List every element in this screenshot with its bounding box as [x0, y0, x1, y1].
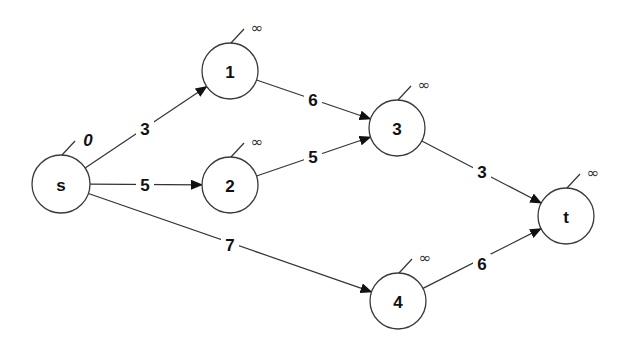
distance-tick [399, 259, 412, 273]
distance-label: ∞ [251, 133, 264, 151]
distance-tick [231, 29, 244, 43]
node-2: 2∞ [202, 133, 263, 213]
distance-tick [231, 143, 244, 157]
edges-layer: 3576536 [85, 80, 541, 292]
edge-weight: 3 [140, 120, 149, 139]
edge-weight: 7 [225, 236, 234, 255]
distance-label: ∞ [251, 19, 264, 37]
edge-s-2: 5 [90, 175, 202, 195]
distance-tick [62, 141, 75, 155]
node-s: s0 [32, 131, 93, 214]
distance-tick [567, 174, 580, 188]
edge-weight: 6 [477, 255, 486, 274]
edge-weight: 3 [477, 163, 486, 182]
shortest-path-graph: 3576536 s01∞2∞3∞4∞t∞ [0, 0, 629, 348]
edge-weight: 5 [140, 176, 149, 195]
node-label: t [563, 208, 569, 227]
edge-3-t: 3 [422, 141, 541, 203]
edge-s-1: 3 [85, 87, 207, 168]
nodes-layer: s01∞2∞3∞4∞t∞ [32, 19, 599, 329]
edge-1-3: 6 [256, 80, 370, 119]
node-label: 3 [392, 120, 401, 139]
edge-weight: 5 [308, 148, 317, 167]
node-label: 4 [393, 293, 403, 312]
distance-label: 0 [83, 131, 93, 150]
distance-tick [398, 86, 411, 100]
node-1: 1∞ [202, 19, 263, 99]
distance-label: ∞ [419, 249, 432, 267]
edge-2-3: 5 [256, 137, 370, 176]
node-3: 3∞ [369, 76, 430, 156]
edge-weight: 6 [308, 91, 317, 110]
node-label: s [56, 176, 65, 195]
node-t: t∞ [538, 164, 599, 244]
node-label: 2 [225, 177, 234, 196]
edge-4-t: 6 [423, 229, 541, 289]
distance-label: ∞ [587, 164, 600, 182]
node-4: 4∞ [370, 249, 431, 329]
node-label: 1 [225, 63, 234, 82]
distance-label: ∞ [418, 76, 431, 94]
